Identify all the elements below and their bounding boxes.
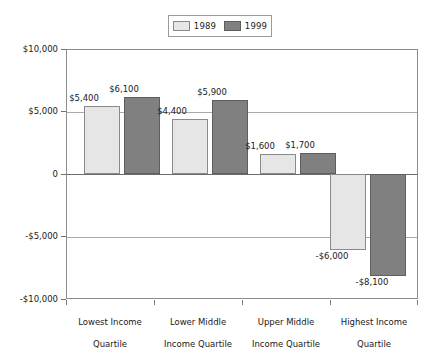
bar-value-label-1999-upper-middle: $1,700 (282, 141, 318, 150)
x-category-lower-middle-income-quartile: Lower Middle Income Quartile (154, 306, 242, 352)
bar-value-label-1999-highest: -$8,100 (352, 278, 392, 287)
chart-legend: 1989 1999 (168, 15, 272, 37)
x-category-line2: Quartile (330, 339, 418, 350)
y-tick-label-0: 0 (53, 170, 58, 179)
bar-1999-upper-middle-income-quartile[interactable] (300, 153, 336, 174)
x-tick-mark-4 (417, 300, 418, 305)
bar-value-label-1999-lower-middle: $5,900 (194, 88, 230, 97)
legend-swatch-1989-icon (173, 21, 190, 31)
x-tick-mark-3 (330, 300, 331, 305)
x-category-highest-income-quartile: Highest Income Quartile (330, 306, 418, 352)
bar-1989-lower-middle-income-quartile[interactable] (172, 119, 208, 174)
y-tick-label-neg5000: -$5,000 (25, 232, 58, 241)
x-category-line2: Income Quartile (154, 339, 242, 350)
bar-1989-highest-income-quartile[interactable] (330, 174, 366, 250)
x-category-lowest-income-quartile: Lowest Income Quartile (66, 306, 154, 352)
legend-entry-1989[interactable]: 1989 (173, 21, 216, 31)
legend-label-1989: 1989 (194, 22, 216, 31)
legend-entry-1999[interactable]: 1999 (224, 21, 267, 31)
bar-value-label-1989-upper-middle: $1,600 (242, 142, 278, 151)
x-category-line1: Upper Middle (242, 317, 330, 328)
x-category-line1: Lowest Income (66, 317, 154, 328)
y-tick-label-10000: $10,000 (23, 45, 58, 54)
bar-value-label-1989-lowest: $5,400 (66, 94, 102, 103)
x-tick-mark-2 (242, 300, 243, 305)
y-tick-label-neg10000: -$10,000 (20, 295, 58, 304)
x-tick-mark-1 (154, 300, 155, 305)
legend-label-1999: 1999 (245, 22, 267, 31)
bar-1999-highest-income-quartile[interactable] (370, 174, 406, 276)
x-category-line1: Highest Income (330, 317, 418, 328)
bar-1989-lowest-income-quartile[interactable] (84, 106, 120, 174)
x-tick-mark-0 (66, 300, 67, 305)
x-category-line2: Income Quartile (242, 339, 330, 350)
bar-1999-lower-middle-income-quartile[interactable] (212, 100, 248, 174)
legend-swatch-1999-icon (224, 21, 241, 31)
y-tick-label-5000: $5,000 (28, 107, 58, 116)
x-category-line2: Quartile (66, 339, 154, 350)
bar-value-label-1989-lower-middle: $4,400 (154, 107, 190, 116)
x-category-line1: Lower Middle (154, 317, 242, 328)
x-category-upper-middle-income-quartile: Upper Middle Income Quartile (242, 306, 330, 352)
bar-value-label-1999-lowest: $6,100 (106, 85, 142, 94)
bar-1989-upper-middle-income-quartile[interactable] (260, 154, 296, 174)
bar-value-label-1989-highest: -$6,000 (312, 252, 352, 261)
